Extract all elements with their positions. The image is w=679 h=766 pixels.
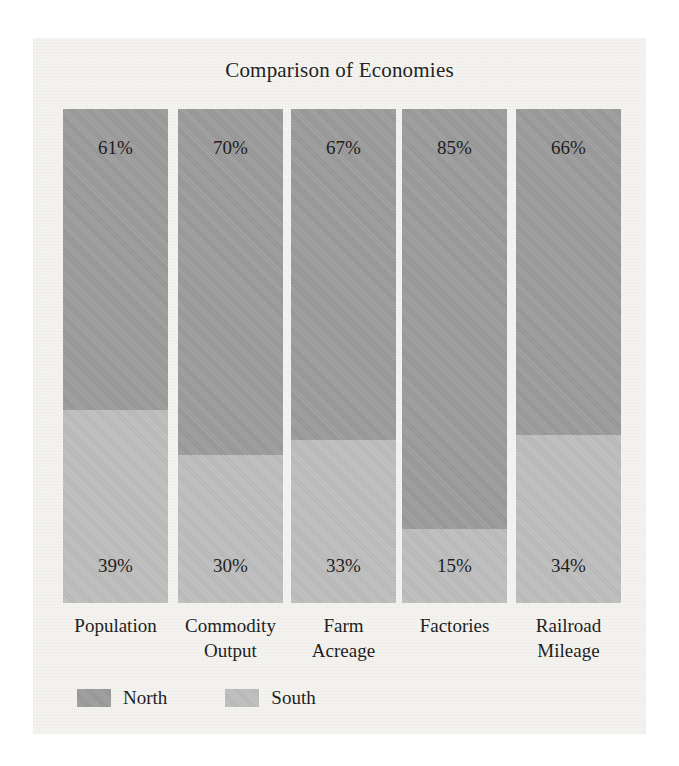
bar-value-label-south: 15%: [402, 555, 507, 577]
chart-legend: North South: [77, 686, 316, 710]
bar-segment-south[interactable]: 30%: [178, 455, 283, 603]
bar-segment-south[interactable]: 39%: [63, 410, 168, 603]
chart-screenshot: Comparison of Economies 61% 39% 70% 30% …: [0, 0, 679, 766]
legend-item-south[interactable]: South: [225, 687, 315, 709]
bar-segment-south[interactable]: 34%: [516, 435, 621, 603]
plot-area: 61% 39% 70% 30% 67% 33%: [0, 0, 679, 766]
bar-value-label-south: 33%: [291, 555, 396, 577]
bar-value-label-north: 66%: [516, 137, 621, 159]
bar-group-population[interactable]: 61% 39%: [63, 109, 168, 603]
legend-label-south: South: [271, 687, 315, 709]
bar-segment-north[interactable]: 66%: [516, 109, 621, 435]
legend-label-north: North: [123, 687, 167, 709]
bar-group-railroad-mileage[interactable]: 66% 34%: [516, 109, 621, 603]
legend-swatch-south-icon: [225, 689, 259, 707]
bar-value-label-south: 34%: [516, 555, 621, 577]
bar-value-label-north: 70%: [178, 137, 283, 159]
bar-segment-south[interactable]: 15%: [402, 529, 507, 603]
bar-value-label-south: 30%: [178, 555, 283, 577]
bar-segment-north[interactable]: 61%: [63, 109, 168, 410]
bar-segment-north[interactable]: 70%: [178, 109, 283, 455]
category-label-railroad-mileage: Railroad Mileage: [496, 613, 641, 663]
bar-value-label-north: 67%: [291, 137, 396, 159]
bar-segment-north[interactable]: 67%: [291, 109, 396, 440]
bar-segment-south[interactable]: 33%: [291, 440, 396, 603]
bar-group-commodity-output[interactable]: 70% 30%: [178, 109, 283, 603]
bar-group-farm-acreage[interactable]: 67% 33%: [291, 109, 396, 603]
legend-swatch-north-icon: [77, 689, 111, 707]
bar-value-label-north: 85%: [402, 137, 507, 159]
bar-value-label-north: 61%: [63, 137, 168, 159]
bar-segment-north[interactable]: 85%: [402, 109, 507, 529]
legend-item-north[interactable]: North: [77, 687, 167, 709]
bar-value-label-south: 39%: [63, 555, 168, 577]
bar-group-factories[interactable]: 85% 15%: [402, 109, 507, 603]
